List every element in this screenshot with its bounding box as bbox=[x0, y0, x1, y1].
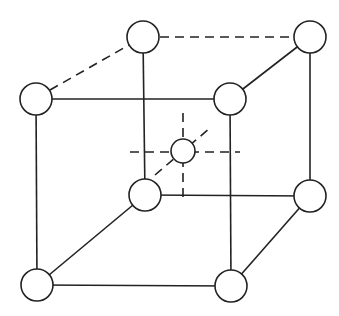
edge-bottom-right-depth bbox=[231, 196, 310, 286]
atom-body-center bbox=[171, 139, 195, 163]
edge-bottom-back bbox=[145, 195, 310, 196]
atom-top-front-left bbox=[20, 83, 52, 115]
edge-bottom-left-depth bbox=[37, 195, 145, 285]
edge-top-left-depth-dashed bbox=[50, 45, 129, 90]
edge-front-left bbox=[36, 99, 37, 285]
dashed-edges bbox=[50, 37, 294, 200]
edge-back-left bbox=[143, 37, 145, 195]
atom-bottom-back-right bbox=[294, 180, 326, 212]
atom-top-front-right bbox=[214, 83, 246, 115]
atoms bbox=[20, 21, 326, 302]
atom-bottom-back-left bbox=[129, 179, 161, 211]
atom-bottom-front-right bbox=[215, 270, 247, 302]
atom-bottom-front-left bbox=[21, 269, 53, 301]
atom-top-back-right bbox=[294, 21, 326, 53]
edge-front-right bbox=[230, 99, 231, 286]
bcc-lattice-diagram bbox=[0, 0, 339, 316]
edge-bottom-front bbox=[37, 285, 231, 286]
atom-top-back-left bbox=[127, 21, 159, 53]
